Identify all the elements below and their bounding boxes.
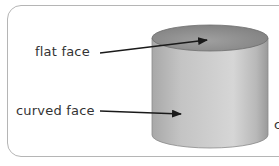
curved-face-label: curved face (16, 103, 95, 118)
cylinder-diagram (0, 0, 279, 166)
flat-face-label: flat face (35, 44, 90, 59)
partial-label: c (274, 117, 279, 132)
cylinder-shape (152, 25, 268, 148)
